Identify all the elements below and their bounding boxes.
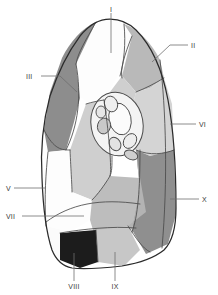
segment-VIII-anterior-basal (60, 230, 98, 268)
label-V: V (6, 185, 11, 192)
lung-diagram-svg: I II III VI V VII X VIII IX (0, 0, 218, 295)
label-III: III (26, 73, 32, 80)
small-vessel-a-icon (96, 106, 106, 118)
label-VII: VII (6, 213, 15, 220)
label-VIII: VIII (68, 283, 79, 290)
lung-segments-figure: I II III VI V VII X VIII IX (0, 0, 218, 295)
label-I: I (110, 6, 112, 13)
label-VI: VI (199, 121, 206, 128)
label-II: II (191, 42, 195, 49)
label-X: X (202, 196, 207, 203)
label-IX: IX (111, 283, 118, 290)
